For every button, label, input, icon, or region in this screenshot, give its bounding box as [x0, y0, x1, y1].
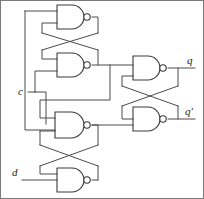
- output-label-q-prime: q′: [185, 105, 194, 117]
- nand-gate-1-body: [57, 5, 84, 29]
- nand-gate-5[interactable]: [133, 56, 166, 80]
- nand-gate-4-bubble-icon: [84, 177, 90, 183]
- output-label-q: q: [187, 54, 193, 66]
- nand-gate-2-bubble-icon: [84, 62, 90, 68]
- wire-nand1-input-bottom-stub: [42, 23, 57, 33]
- logic-circuit-svg: c d q q′: [0, 0, 204, 199]
- nand-gate-4[interactable]: [57, 168, 90, 192]
- nand-gate-3-body: [55, 112, 84, 138]
- wire-nand2-out-to-nand3-top: [40, 65, 110, 118]
- input-label-c: c: [18, 85, 23, 97]
- nand-gate-3-bubble-icon: [84, 122, 90, 128]
- wire-cross-to-nand2-top: [42, 50, 57, 59]
- nand-gate-4-body: [57, 168, 84, 192]
- nand-gate-2-body: [57, 53, 84, 77]
- nand-gate-1[interactable]: [57, 5, 90, 29]
- wire-c-to-nand2: [35, 71, 57, 92]
- wire-nand1-output-to-cross: [92, 17, 98, 33]
- nand-gate-6[interactable]: [133, 107, 166, 131]
- nand-gate-3[interactable]: [55, 112, 90, 138]
- nand-gate-6-bubble-icon: [160, 116, 166, 122]
- nand-gate-5-bubble-icon: [160, 65, 166, 71]
- input-label-d: d: [12, 166, 18, 178]
- nand-gate-2[interactable]: [57, 53, 90, 77]
- nand-gate-1-bubble-icon: [84, 14, 90, 20]
- wire-nand3-out-to-cross: [92, 125, 98, 145]
- nand-gate-6-body: [133, 107, 160, 131]
- wire-cross-to-nand6-bottom: [122, 106, 133, 119]
- nand-gate-5-body: [133, 56, 160, 80]
- wire-network: [22, 11, 195, 180]
- wire-cross-to-nand4-top: [40, 166, 57, 174]
- circuit-diagram-canvas: c d q q′: [0, 0, 204, 199]
- wire-nand5-input-bottom-stub: [122, 76, 133, 86]
